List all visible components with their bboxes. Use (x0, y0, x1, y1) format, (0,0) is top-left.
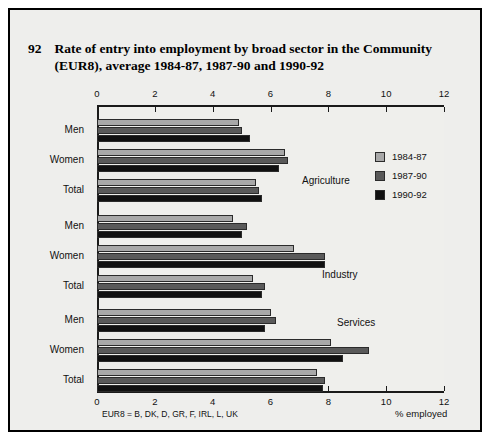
bar-1987-90 (97, 377, 325, 384)
category-label-total: Total (63, 184, 84, 195)
legend-label: 1987-90 (392, 170, 427, 181)
bar-1984-87 (97, 215, 233, 222)
legend-item-1984-87: 1984-87 (375, 147, 427, 166)
figure-header: 92 Rate of entry into employment by broa… (28, 40, 458, 74)
category-label-men: Men (65, 314, 84, 325)
bar-1984-87 (97, 309, 271, 316)
bar-1984-87 (97, 339, 331, 346)
bar-group-services-women (97, 339, 444, 365)
legend-swatch-icon (375, 171, 385, 181)
category-label-total: Total (63, 374, 84, 385)
legend: 1984-871987-901990-92 (375, 147, 427, 204)
bar-1987-90 (97, 223, 247, 230)
tick-mark-bottom (444, 386, 445, 391)
x-tick-label-bottom: 6 (268, 396, 273, 407)
category-label-women: Women (50, 344, 84, 355)
category-axis-labels: MenWomenTotalMenWomenTotalMenWomenTotal (10, 105, 92, 393)
sector-label-services: Services (337, 317, 375, 328)
bar-1987-90 (97, 127, 242, 134)
sector-label-agriculture: Agriculture (302, 175, 350, 186)
x-tick-label-bottom: 4 (210, 396, 215, 407)
x-tick-label-bottom: 8 (326, 396, 331, 407)
x-tick-label-top: 6 (268, 88, 273, 99)
category-label-women: Women (50, 250, 84, 261)
bar-1984-87 (97, 369, 317, 376)
bar-1990-92 (97, 261, 325, 268)
category-label-total: Total (63, 280, 84, 291)
legend-label: 1984-87 (392, 151, 427, 162)
bar-1987-90 (97, 283, 265, 290)
bar-1990-92 (97, 385, 323, 392)
figure-number: 92 (28, 40, 42, 57)
x-tick-label-top: 8 (326, 88, 331, 99)
sector-label-industry: Industry (322, 269, 358, 280)
bar-group-services-total (97, 369, 444, 395)
bar-1990-92 (97, 135, 250, 142)
bar-group-industry-women (97, 245, 444, 271)
bar-1987-90 (97, 157, 288, 164)
bar-1990-92 (97, 195, 262, 202)
category-label-women: Women (50, 154, 84, 165)
tick-mark-top (386, 107, 387, 112)
footnote-eur8: EUR8 = B, DK, D, GR, F, IRL, L, UK (102, 409, 238, 419)
bar-1990-92 (97, 291, 262, 298)
bar-group-industry-total (97, 275, 444, 301)
bar-1990-92 (97, 165, 279, 172)
category-label-men: Men (65, 124, 84, 135)
legend-item-1987-90: 1987-90 (375, 166, 427, 185)
x-tick-label-top: 0 (94, 88, 99, 99)
legend-swatch-icon (375, 190, 385, 200)
x-tick-label-bottom: 2 (152, 396, 157, 407)
bar-1987-90 (97, 347, 369, 354)
category-label-men: Men (65, 220, 84, 231)
bar-1984-87 (97, 179, 256, 186)
figure-frame: 92 Rate of entry into employment by broa… (8, 8, 482, 432)
x-tick-label-top: 12 (439, 88, 450, 99)
bar-group-services-men (97, 309, 444, 335)
x-tick-label-bottom: 12 (439, 396, 450, 407)
legend-item-1990-92: 1990-92 (375, 185, 427, 204)
bar-1987-90 (97, 187, 259, 194)
x-tick-label-top: 4 (210, 88, 215, 99)
bar-group-agriculture-men (97, 119, 444, 145)
tick-mark-top (328, 107, 329, 112)
bar-1990-92 (97, 325, 265, 332)
bar-1984-87 (97, 245, 294, 252)
tick-mark-top (155, 107, 156, 112)
tick-mark-top (271, 107, 272, 112)
bar-1990-92 (97, 355, 343, 362)
bar-group-industry-men (97, 215, 444, 241)
legend-label: 1990-92 (392, 189, 427, 200)
legend-swatch-icon (375, 152, 385, 162)
axis-unit-label: % employed (395, 408, 447, 419)
x-tick-label-top: 10 (381, 88, 392, 99)
tick-mark-top (213, 107, 214, 112)
bar-1987-90 (97, 253, 325, 260)
x-tick-label-top: 2 (152, 88, 157, 99)
bar-1987-90 (97, 317, 276, 324)
bar-1990-92 (97, 231, 242, 238)
figure-title: Rate of entry into employment by broad s… (55, 40, 447, 74)
bar-1984-87 (97, 119, 239, 126)
x-tick-label-bottom: 0 (94, 396, 99, 407)
bar-1984-87 (97, 275, 253, 282)
bar-1984-87 (97, 149, 285, 156)
x-tick-label-bottom: 10 (381, 396, 392, 407)
tick-mark-top (444, 107, 445, 112)
